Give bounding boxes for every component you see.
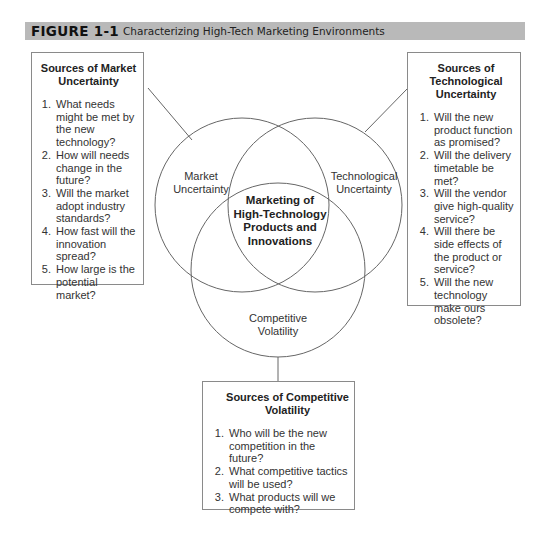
label-line: High-Technology	[230, 208, 330, 222]
title-line: Uncertainty	[416, 88, 516, 101]
title-line: Volatility	[225, 404, 350, 417]
label-line: Products and	[230, 221, 330, 235]
title-line: Uncertainty	[38, 75, 139, 88]
list-item: How large is the potential market?	[54, 263, 139, 301]
box-title: Sources of Market Uncertainty	[38, 62, 139, 88]
label-line: Competitive	[238, 312, 318, 325]
question-list: Will the new product function as promise…	[416, 111, 516, 327]
box-title: Sources of Competitive Volatility	[211, 391, 350, 417]
technological-uncertainty-sources-box: Sources of Technological Uncertainty Wil…	[407, 52, 521, 306]
label-line: Marketing of	[230, 194, 330, 208]
list-item: What products will we compete with?	[227, 491, 350, 516]
box-title: Sources of Technological Uncertainty	[416, 62, 516, 101]
list-item: Will the market adopt industry standards…	[54, 187, 139, 225]
list-item: Will there be side effects of the produc…	[432, 225, 516, 276]
title-line: Sources of Market	[38, 62, 139, 75]
label-line: Market	[165, 170, 237, 183]
market-connector-line	[148, 88, 192, 140]
list-item: Will the new product function as promise…	[432, 111, 516, 149]
list-item: Will the new technology make ours obsole…	[432, 276, 516, 327]
question-list: What needs might be met by the new techn…	[38, 98, 139, 301]
list-item: Will the vendor give high-quality servic…	[432, 187, 516, 225]
label-line: Uncertainty	[325, 183, 403, 196]
competitive-volatility-sources-box: Sources of Competitive Volatility Who wi…	[202, 381, 355, 510]
technological-uncertainty-label: Technological Uncertainty	[325, 170, 403, 196]
list-item: What competitive tactics will be used?	[227, 465, 350, 490]
label-line: Volatility	[238, 325, 318, 338]
title-line: Technological	[416, 75, 516, 88]
list-item: Will the delivery timetable be met?	[432, 149, 516, 187]
title-line: Sources of	[416, 62, 516, 75]
label-line: Technological	[325, 170, 403, 183]
list-item: How will needs change in the future?	[54, 149, 139, 187]
technology-connector-line	[365, 89, 407, 132]
market-uncertainty-sources-box: Sources of Market Uncertainty What needs…	[31, 52, 144, 285]
label-line: Innovations	[230, 235, 330, 249]
list-item: Who will be the new competition in the f…	[227, 427, 350, 465]
market-uncertainty-label: Market Uncertainty	[165, 170, 237, 196]
label-line: Uncertainty	[165, 183, 237, 196]
competitive-volatility-label: Competitive Volatility	[238, 312, 318, 338]
question-list: Who will be the new competition in the f…	[211, 427, 350, 516]
center-intersection-label: Marketing of High-Technology Products an…	[230, 194, 330, 248]
list-item: How fast will the innovation spread?	[54, 225, 139, 263]
title-line: Sources of Competitive	[225, 391, 350, 404]
list-item: What needs might be met by the new techn…	[54, 98, 139, 149]
